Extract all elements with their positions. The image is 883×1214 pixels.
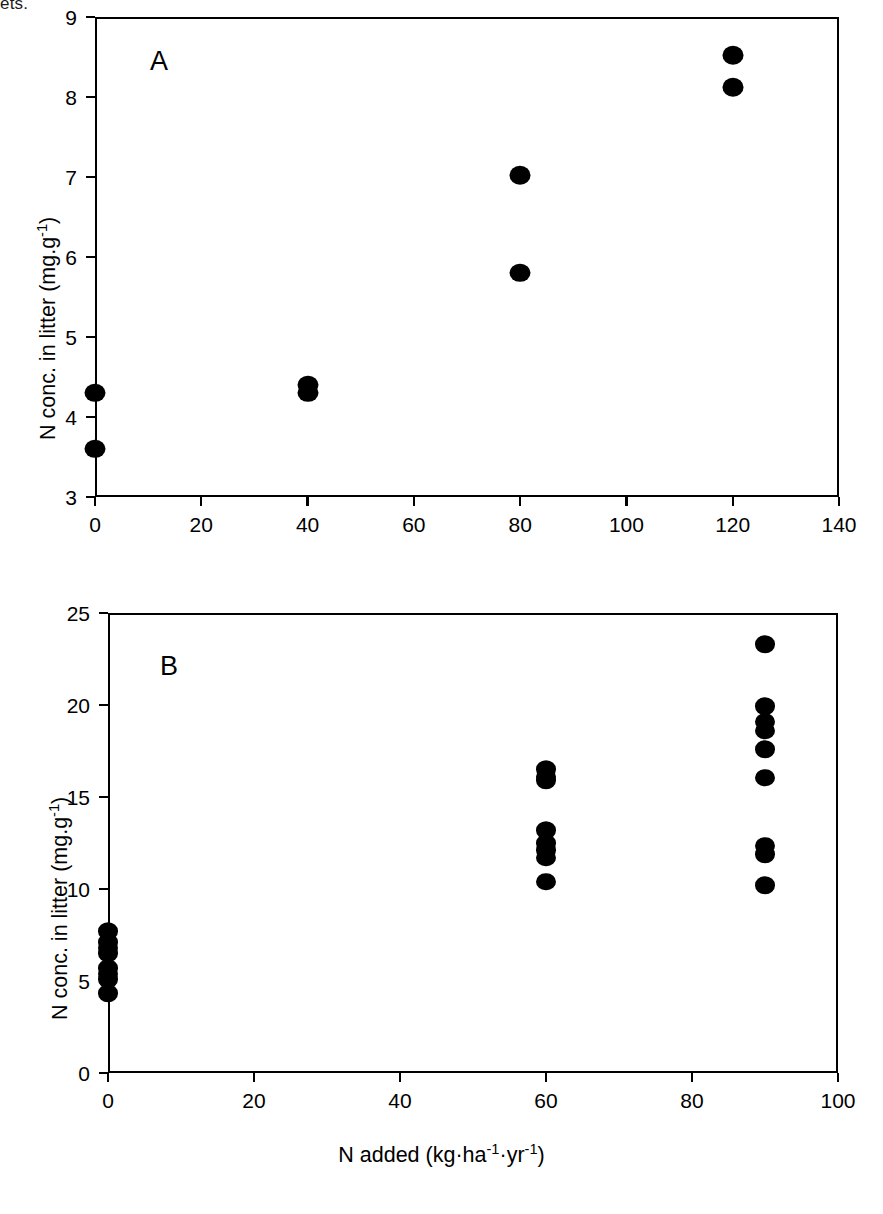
x-tick-label: 20 <box>190 514 213 535</box>
y-tick-mark <box>86 416 95 418</box>
x-tick-label: 80 <box>508 514 531 535</box>
x-tick-label: 40 <box>388 1090 411 1111</box>
panel-b-y-axis-title: N conc. in litter (mg.g-1) <box>50 797 72 1020</box>
data-point <box>755 845 775 863</box>
x-tick-mark <box>200 497 202 506</box>
x-tick-mark <box>545 1073 547 1082</box>
data-point <box>536 873 556 891</box>
y-tick-mark <box>99 704 108 706</box>
y-tick-label: 7 <box>29 167 77 188</box>
data-point <box>755 635 775 653</box>
x-tick-label: 100 <box>820 1090 855 1111</box>
y-tick-mark <box>86 336 95 338</box>
y-tick-mark <box>86 16 95 18</box>
x-tick-mark <box>625 497 627 506</box>
y-tick-label: 3 <box>29 487 77 508</box>
x-tick-label: 40 <box>296 514 319 535</box>
x-axis-title-mid: ·yr <box>499 1143 524 1167</box>
y-tick-label: 20 <box>42 695 90 716</box>
x-tick-label: 20 <box>242 1090 265 1111</box>
x-tick-mark <box>837 1073 839 1082</box>
x-tick-label: 120 <box>715 514 750 535</box>
x-tick-label: 140 <box>821 514 856 535</box>
data-point <box>536 772 556 790</box>
x-tick-mark <box>253 1073 255 1082</box>
x-tick-label: 60 <box>402 514 425 535</box>
data-point <box>755 740 775 758</box>
data-point <box>98 984 118 1002</box>
data-point <box>536 849 556 867</box>
x-tick-mark <box>413 497 415 506</box>
panel-a: A 3456789 020406080100120140 N conc. in … <box>0 0 883 560</box>
panel-a-y-axis-title-text: N conc. in litter (mg.g <box>36 237 60 440</box>
x-tick-mark <box>306 497 308 506</box>
x-tick-label: 60 <box>534 1090 557 1111</box>
y-tick-label: 9 <box>29 7 77 28</box>
x-tick-mark <box>838 497 840 506</box>
figure-page: ets. A 3456789 020406080100120140 N conc… <box>0 0 883 1214</box>
x-tick-mark <box>399 1073 401 1082</box>
panel-b-letter: B <box>160 653 178 680</box>
x-tick-label: 80 <box>680 1090 703 1111</box>
panel-b: B 0510152025 020406080100 N conc. in lit… <box>0 600 883 1214</box>
x-tick-mark <box>94 497 96 506</box>
x-tick-mark <box>691 1073 693 1082</box>
panel-a-y-axis-title: N conc. in litter (mg.g-1) <box>38 217 60 440</box>
panel-b-y-axis-title-text: N conc. in litter (mg.g <box>48 817 72 1020</box>
x-axis-title-exponent-1: -1 <box>486 1141 499 1157</box>
x-tick-label: 0 <box>102 1090 114 1111</box>
y-tick-mark <box>99 888 108 890</box>
y-tick-label: 25 <box>42 603 90 624</box>
x-axis-title-text: N added (kg·ha <box>338 1143 486 1167</box>
x-axis-title-tail: ) <box>538 1143 545 1167</box>
panel-a-letter: A <box>150 48 168 75</box>
x-tick-mark <box>732 497 734 506</box>
y-tick-mark <box>86 176 95 178</box>
x-tick-label: 0 <box>89 514 101 535</box>
data-point <box>755 769 775 787</box>
x-tick-mark <box>107 1073 109 1082</box>
panel-b-plot-frame <box>108 613 838 1073</box>
x-axis-title-exponent-2: -1 <box>525 1141 538 1157</box>
panel-b-y-axis-title-tail: ) <box>48 797 72 804</box>
y-tick-mark <box>86 256 95 258</box>
panel-a-y-axis-title-tail: ) <box>36 217 60 224</box>
x-tick-label: 100 <box>609 514 644 535</box>
panel-a-y-axis-title-exponent: -1 <box>34 224 50 237</box>
data-point <box>755 877 775 895</box>
y-tick-label: 0 <box>42 1063 90 1084</box>
x-axis-title: N added (kg·ha-1·yr-1) <box>0 1145 883 1167</box>
data-point <box>755 722 775 740</box>
y-tick-label: 8 <box>29 87 77 108</box>
x-tick-mark <box>519 497 521 506</box>
y-tick-mark <box>99 612 108 614</box>
y-tick-mark <box>86 96 95 98</box>
y-tick-mark <box>99 796 108 798</box>
panel-b-y-axis-title-exponent: -1 <box>46 804 62 817</box>
